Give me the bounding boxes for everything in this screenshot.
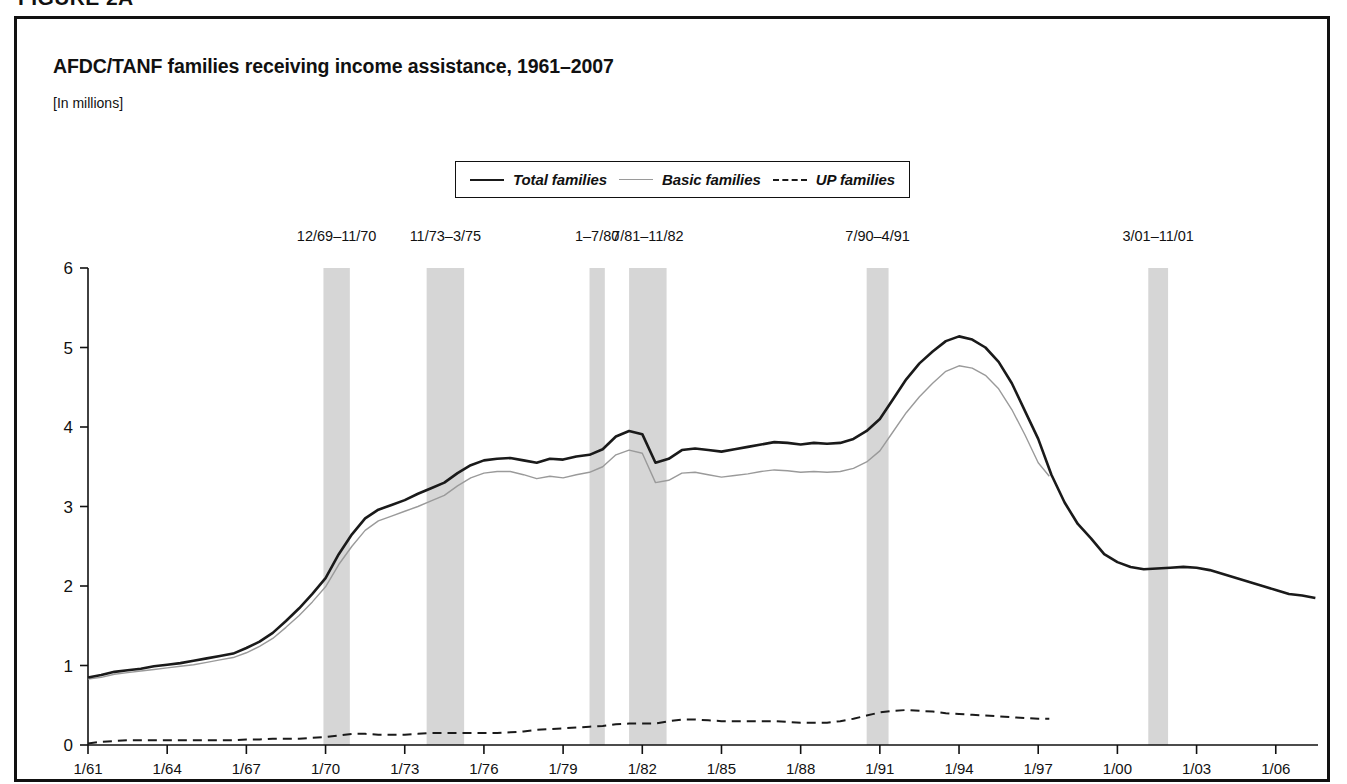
y-tick-label-1: 1 xyxy=(64,657,73,676)
x-tick-label-1/06: 1/06 xyxy=(1261,760,1290,777)
x-tick-label-1/88: 1/88 xyxy=(786,760,815,777)
recession-band-1 xyxy=(323,268,349,745)
recession-band-6 xyxy=(1148,268,1168,745)
chart-plot-area: 01234561/611/641/671/701/731/761/791/821… xyxy=(0,0,1347,784)
y-tick-label-5: 5 xyxy=(64,339,73,358)
series-line-up-families xyxy=(88,710,1049,743)
x-tick-label-1/82: 1/82 xyxy=(628,760,657,777)
x-tick-label-1/97: 1/97 xyxy=(1024,760,1053,777)
y-tick-label-3: 3 xyxy=(64,498,73,517)
series-line-basic-families xyxy=(88,366,1049,679)
y-tick-label-0: 0 xyxy=(64,736,73,755)
x-tick-label-1/76: 1/76 xyxy=(469,760,498,777)
x-tick-label-1/00: 1/00 xyxy=(1103,760,1132,777)
y-tick-label-6: 6 xyxy=(64,259,73,278)
y-tick-label-2: 2 xyxy=(64,577,73,596)
recession-band-3 xyxy=(590,268,605,745)
x-tick-label-1/67: 1/67 xyxy=(232,760,261,777)
recession-band-4 xyxy=(629,268,666,745)
x-tick-label-1/94: 1/94 xyxy=(944,760,973,777)
x-tick-label-1/79: 1/79 xyxy=(549,760,578,777)
recession-band-5 xyxy=(867,268,889,745)
x-tick-label-1/64: 1/64 xyxy=(153,760,182,777)
y-tick-label-4: 4 xyxy=(64,418,73,437)
x-tick-label-1/85: 1/85 xyxy=(707,760,736,777)
x-tick-label-1/70: 1/70 xyxy=(311,760,340,777)
x-tick-label-1/91: 1/91 xyxy=(865,760,894,777)
recession-band-2 xyxy=(427,268,464,745)
x-tick-label-1/61: 1/61 xyxy=(73,760,102,777)
x-tick-label-1/73: 1/73 xyxy=(390,760,419,777)
x-tick-label-1/03: 1/03 xyxy=(1182,760,1211,777)
series-line-total-families xyxy=(88,336,1315,677)
figure-container: FIGURE 2A AFDC/TANF families receiving i… xyxy=(0,0,1347,784)
